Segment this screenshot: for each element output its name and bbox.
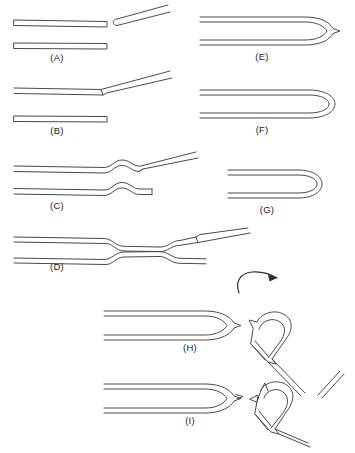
panel-f-label: (F) [256, 124, 269, 135]
panel-e-label: (E) [255, 51, 268, 62]
background [0, 0, 355, 453]
figure-canvas: (A) (B) (C) [0, 0, 355, 453]
panel-h-label: (H) [183, 342, 197, 353]
panel-a-label: (A) [50, 52, 63, 63]
panel-i-label: (I) [185, 415, 195, 426]
panel-c-label: (C) [50, 200, 64, 211]
panel-b-label: (B) [50, 125, 63, 136]
panel-g-label: (G) [260, 204, 274, 215]
panel-d-label: (D) [50, 261, 64, 272]
diagram-svg: (A) (B) (C) [0, 0, 355, 453]
